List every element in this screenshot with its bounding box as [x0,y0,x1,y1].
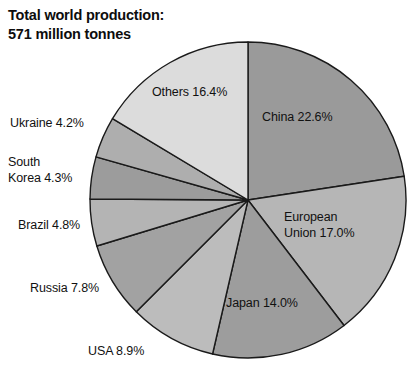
slice-label-usa: USA 8.9% [88,344,144,360]
slice-label-others: Others 16.4% [152,85,227,101]
slice-label-european-union: European Union 17.0% [284,210,354,241]
pie-chart-figure: Total world production:571 million tonne… [0,0,411,366]
slice-label-ukraine: Ukraine 4.2% [10,116,84,132]
slice-label-russia: Russia 7.8% [30,281,99,297]
slice-label-china: China 22.6% [262,110,332,126]
slice-label-japan: Japan 14.0% [226,296,298,312]
chart-title-line-2: 571 million tonnes [8,26,131,42]
slice-label-south-korea: South Korea 4.3% [8,155,72,186]
chart-title: Total world production:571 million tonne… [8,6,164,43]
chart-title-line-1: Total world production: [8,7,164,23]
slice-label-brazil: Brazil 4.8% [18,218,80,234]
